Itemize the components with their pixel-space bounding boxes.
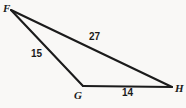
triangle-figure: F G H 27 15 14 <box>0 0 186 108</box>
vertex-label-g: G <box>74 90 82 101</box>
vertex-label-f: F <box>3 3 10 14</box>
vertex-label-h: H <box>175 83 184 94</box>
segment-fg <box>11 10 83 86</box>
side-length-fg: 15 <box>31 49 42 59</box>
side-length-fh: 27 <box>89 32 100 42</box>
side-length-gh: 14 <box>122 88 133 98</box>
triangle-shape <box>0 0 186 108</box>
